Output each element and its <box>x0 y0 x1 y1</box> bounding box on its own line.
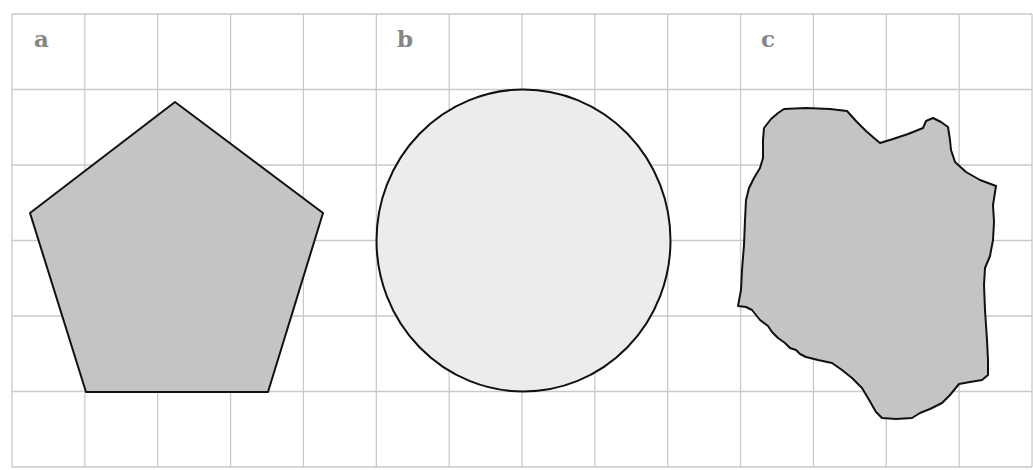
shape-area-comparison-figure: a b c <box>0 0 1033 470</box>
pentagon-shape <box>30 102 323 392</box>
panel-b-label: b <box>397 25 413 52</box>
panel-a: a <box>30 25 323 392</box>
circle-shape <box>377 90 671 392</box>
panel-c: c <box>738 25 996 419</box>
panel-c-label: c <box>761 25 775 52</box>
irregular-blob-shape <box>738 108 996 419</box>
panel-b: b <box>377 25 671 392</box>
panel-a-label: a <box>34 25 49 52</box>
figure-canvas: a b c <box>0 0 1033 470</box>
